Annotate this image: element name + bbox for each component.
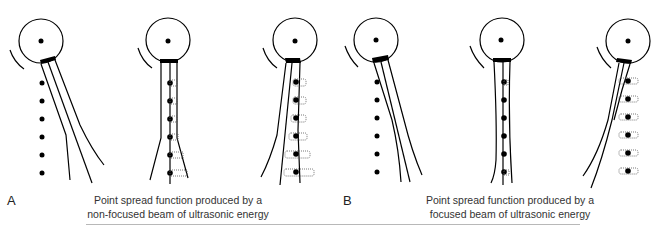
beam-edge <box>509 62 512 183</box>
caption-b-line1: Point spread function produced by a <box>410 193 610 207</box>
figure-b1-transducer-angled <box>345 18 422 182</box>
point-targets <box>625 78 631 174</box>
transducer-face <box>493 58 511 62</box>
point-targets <box>375 80 380 175</box>
beam-edge <box>177 63 188 178</box>
beam-axis <box>280 63 292 185</box>
panel-label-b: B <box>343 193 352 208</box>
beam-edge <box>388 60 422 175</box>
psf-blur-regions <box>504 80 509 175</box>
figure-a3-transducer-angled <box>261 18 317 185</box>
motion-arc-icon <box>597 47 611 68</box>
beam-axis <box>381 62 410 182</box>
figure-a1-transducer-angled <box>10 19 104 183</box>
figure-b3-transducer-angled <box>583 19 650 188</box>
bottom-rule-divider <box>86 224 580 225</box>
panel-label-a: A <box>7 193 16 208</box>
transducer-face <box>285 58 301 63</box>
caption-a-line1: Point spread function produced by a <box>78 193 278 207</box>
caption-a-line2: non-focused beam of ultrasonic energy <box>78 207 278 221</box>
figure-a2-transducer-centered <box>138 18 190 184</box>
caption-b-line2: focused beam of ultrasonic energy <box>410 207 610 221</box>
transducer-face <box>160 59 178 63</box>
caption-b: Point spread function produced by a focu… <box>410 193 610 221</box>
figure-b2-transducer-centered <box>470 18 524 185</box>
beam-edge <box>150 63 161 180</box>
beam-axis <box>48 62 92 183</box>
motion-arc-icon <box>263 48 277 68</box>
point-targets <box>501 79 507 175</box>
psf-blur-regions <box>170 80 187 176</box>
motion-arc-icon <box>138 48 152 68</box>
caption-a: Point spread function produced by a non-… <box>78 193 278 221</box>
beam-edge <box>491 62 496 183</box>
point-targets <box>40 81 45 176</box>
